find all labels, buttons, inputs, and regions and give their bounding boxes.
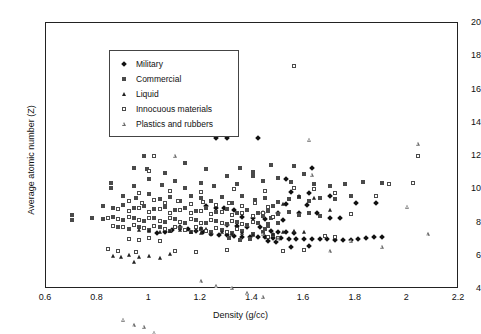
data-point-innocuous-materials: [152, 154, 156, 158]
data-point-plastics-and-rubbers: [276, 237, 280, 241]
data-point-commercial: [90, 216, 94, 220]
data-point-commercial: [349, 194, 353, 198]
data-point-plastics-and-rubbers: [380, 244, 384, 248]
data-point-military: [317, 236, 323, 242]
data-point-liquid: [281, 229, 285, 233]
data-point-innocuous-materials: [201, 200, 205, 204]
data-point-liquid: [189, 229, 193, 233]
data-point-military: [265, 238, 271, 244]
data-point-commercial: [132, 216, 136, 220]
data-point-innocuous-materials: [225, 230, 229, 234]
data-point-innocuous-materials: [168, 211, 172, 215]
data-point-commercial: [163, 171, 167, 175]
data-point-plastics-and-rubbers: [152, 330, 156, 334]
data-point-liquid: [168, 229, 172, 233]
data-point-commercial: [111, 215, 115, 219]
x-tick-label: 0.8: [90, 292, 103, 302]
data-point-plastics-and-rubbers: [328, 249, 332, 253]
legend-item-innocuous-materials[interactable]: Innocuous materials: [116, 101, 232, 116]
data-point-commercial: [302, 172, 306, 176]
data-point-innocuous-materials: [152, 198, 156, 202]
data-point-innocuous-materials: [387, 182, 391, 186]
data-point-commercial: [194, 218, 198, 222]
data-point-commercial: [152, 207, 156, 211]
legend-item-military[interactable]: Military: [116, 56, 232, 71]
data-point-innocuous-materials: [163, 201, 167, 205]
legend-item-label: Innocuous materials: [136, 104, 212, 114]
data-point-innocuous-materials: [147, 216, 151, 220]
data-point-military: [288, 244, 294, 250]
data-point-innocuous-materials: [189, 217, 193, 221]
data-point-innocuous-materials: [137, 218, 141, 222]
data-point-innocuous-materials: [235, 227, 239, 231]
data-point-commercial: [121, 203, 125, 207]
data-point-commercial: [343, 182, 347, 186]
y-tick-label: 10: [459, 183, 481, 193]
data-point-innocuous-materials: [333, 191, 337, 195]
data-point-innocuous-materials: [158, 207, 162, 211]
data-point-military: [255, 235, 261, 241]
data-point-commercial: [173, 208, 177, 212]
data-point-innocuous-materials: [220, 221, 224, 225]
data-point-innocuous-materials: [323, 234, 327, 238]
data-point-innocuous-materials: [173, 249, 177, 253]
data-point-commercial: [361, 180, 365, 184]
data-point-commercial: [256, 221, 260, 225]
data-point-commercial: [297, 213, 301, 217]
data-point-commercial: [214, 219, 218, 223]
data-point-liquid: [281, 202, 285, 206]
data-point-innocuous-materials: [214, 203, 218, 207]
data-point-commercial: [318, 214, 322, 218]
legend-marker-icon: [116, 107, 132, 111]
legend-item-commercial[interactable]: Commercial: [116, 71, 232, 86]
data-point-commercial: [271, 204, 275, 208]
data-point-liquid: [230, 232, 234, 236]
data-point-military: [353, 200, 359, 206]
data-point-innocuous-materials: [178, 208, 182, 212]
data-point-commercial: [251, 174, 255, 178]
data-point-innocuous-materials: [176, 199, 180, 203]
data-point-commercial: [307, 199, 311, 203]
data-point-commercial: [132, 184, 136, 188]
data-point-innocuous-materials: [251, 214, 255, 218]
data-point-commercial: [235, 211, 239, 215]
data-point-liquid: [328, 208, 332, 212]
data-point-commercial: [238, 238, 242, 242]
data-point-innocuous-materials: [147, 210, 151, 214]
data-point-liquid: [240, 231, 244, 235]
data-point-innocuous-materials: [106, 247, 110, 251]
y-tick-label: 18: [459, 50, 481, 60]
data-point-innocuous-materials: [227, 201, 231, 205]
data-point-innocuous-materials: [147, 169, 151, 173]
data-point-military: [304, 202, 310, 208]
data-point-commercial: [152, 216, 156, 220]
data-point-military: [286, 236, 292, 242]
data-point-innocuous-materials: [147, 236, 151, 240]
data-point-commercial: [183, 221, 187, 225]
data-point-commercial: [380, 181, 384, 185]
legend-item-plastics-and-rubbers[interactable]: Plastics and rubbers: [116, 116, 232, 131]
data-point-commercial: [183, 186, 187, 190]
data-point-innocuous-materials: [194, 225, 198, 229]
data-point-commercial: [109, 186, 113, 190]
data-point-innocuous-materials: [127, 209, 131, 213]
data-point-commercial: [266, 222, 270, 226]
data-point-military: [337, 216, 343, 222]
data-point-commercial: [214, 210, 218, 214]
data-point-plastics-and-rubbers: [245, 291, 249, 295]
data-point-liquid: [297, 194, 301, 198]
x-axis-label: Density (g/cc): [0, 310, 481, 320]
legend-item-liquid[interactable]: Liquid: [116, 86, 232, 101]
data-point-military: [309, 236, 315, 242]
data-point-innocuous-materials: [416, 154, 420, 158]
data-point-liquid: [292, 229, 296, 233]
data-point-liquid: [158, 256, 162, 260]
data-point-innocuous-materials: [302, 248, 306, 252]
data-point-commercial: [116, 225, 120, 229]
data-point-commercial: [127, 227, 131, 231]
data-point-liquid: [137, 228, 141, 232]
data-point-commercial: [111, 206, 115, 210]
data-point-commercial: [183, 206, 187, 210]
data-point-commercial: [225, 222, 229, 226]
data-point-commercial: [101, 204, 105, 208]
